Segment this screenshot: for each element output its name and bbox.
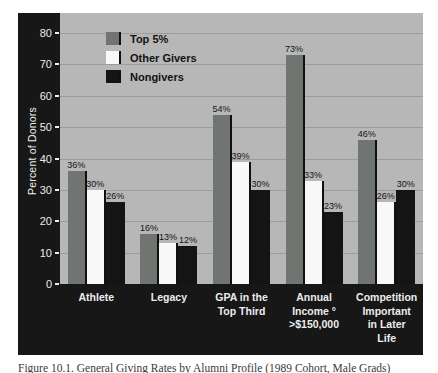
- bar-top-5-gpa-in-the: 54%: [213, 115, 232, 284]
- bar-nongivers-legacy: 12%: [178, 246, 197, 284]
- y-tick-mark-0: [55, 283, 59, 285]
- bar-group-competition: 46%26%30%: [350, 13, 423, 284]
- bar-top-5-athlete: 36%: [68, 171, 87, 284]
- plot-area: Top 5% Other Givers Nongivers 36%30%26%1…: [60, 13, 423, 284]
- x-label-legacy: Legacy: [133, 284, 206, 355]
- legend-swatch-other-givers: [106, 51, 121, 64]
- legend-label-nongivers: Nongivers: [130, 71, 184, 83]
- x-label-competition: Competition Important in Later Life: [350, 284, 423, 355]
- legend-label-top-5: Top 5%: [130, 33, 168, 45]
- chart-frame: 01020304050607080 Percent of Donors Top …: [18, 13, 423, 355]
- bar-other-givers-competition: 26%: [377, 202, 396, 284]
- legend-item-other-givers: Other Givers: [106, 51, 197, 64]
- y-axis: 01020304050607080: [18, 13, 60, 284]
- bar-group-annual: 73%33%23%: [278, 13, 351, 284]
- figure-chart: 01020304050607080 Percent of Donors Top …: [0, 0, 438, 373]
- bar-nongivers-gpa-in-the: 30%: [251, 190, 270, 284]
- y-tick-mark-40: [55, 158, 59, 160]
- bar-value-label: 30%: [251, 179, 269, 189]
- bar-other-givers-gpa-in-the: 39%: [232, 162, 251, 284]
- bar-nongivers-competition: 30%: [396, 190, 415, 284]
- x-label-gpa-in-the: GPA in the Top Third: [205, 284, 278, 355]
- bar-other-givers-legacy: 13%: [159, 243, 178, 284]
- bar-top-5-annual: 73%: [286, 55, 305, 284]
- legend-label-other-givers: Other Givers: [130, 52, 197, 64]
- legend-swatch-top-5: [106, 32, 121, 45]
- y-tick-label-0: 0: [18, 277, 52, 291]
- x-label-athlete: Athlete: [60, 284, 133, 355]
- bar-value-label: 23%: [324, 201, 342, 211]
- y-tick-mark-50: [55, 126, 59, 128]
- bar-top-5-competition: 46%: [358, 140, 377, 284]
- legend-swatch-nongivers: [106, 70, 121, 83]
- bar-group-gpa-in-the: 54%39%30%: [205, 13, 278, 284]
- bar-top-5-legacy: 16%: [140, 234, 159, 284]
- y-axis-title: Percent of Donors: [26, 107, 38, 195]
- bar-value-label: 16%: [140, 223, 158, 233]
- bar-value-label: 30%: [397, 179, 415, 189]
- y-tick-label-10: 10: [18, 246, 52, 260]
- y-tick-mark-70: [55, 63, 59, 65]
- bar-value-label: 39%: [231, 151, 249, 161]
- y-tick-mark-60: [55, 95, 59, 97]
- y-tick-mark-80: [55, 32, 59, 34]
- y-tick-label-80: 80: [18, 26, 52, 40]
- bar-value-label: 73%: [285, 44, 303, 54]
- y-tick-label-60: 60: [18, 89, 52, 103]
- y-tick-mark-10: [55, 252, 59, 254]
- y-tick-mark-30: [55, 189, 59, 191]
- legend-item-top-5: Top 5%: [106, 32, 197, 45]
- bar-value-label: 36%: [67, 160, 85, 170]
- bar-value-label: 26%: [106, 191, 124, 201]
- legend-item-nongivers: Nongivers: [106, 70, 197, 83]
- bar-other-givers-annual: 33%: [305, 181, 324, 285]
- y-tick-label-20: 20: [18, 214, 52, 228]
- figure-caption: Figure 10.1. General Giving Rates by Alu…: [18, 362, 428, 373]
- y-tick-mark-20: [55, 220, 59, 222]
- bar-value-label: 54%: [212, 104, 230, 114]
- bar-value-label: 33%: [304, 170, 322, 180]
- x-axis-labels: AthleteLegacyGPA in the Top ThirdAnnual …: [60, 284, 423, 355]
- bar-value-label: 12%: [179, 235, 197, 245]
- x-label-annual: Annual Income ° >$150,000: [278, 284, 351, 355]
- y-tick-label-70: 70: [18, 57, 52, 71]
- bar-value-label: 13%: [159, 232, 177, 242]
- bar-nongivers-athlete: 26%: [106, 202, 125, 284]
- bar-nongivers-annual: 23%: [324, 212, 343, 284]
- legend: Top 5% Other Givers Nongivers: [106, 32, 197, 83]
- bar-other-givers-athlete: 30%: [87, 190, 106, 284]
- bar-value-label: 46%: [358, 129, 376, 139]
- bar-value-label: 30%: [86, 179, 104, 189]
- bar-value-label: 26%: [377, 191, 395, 201]
